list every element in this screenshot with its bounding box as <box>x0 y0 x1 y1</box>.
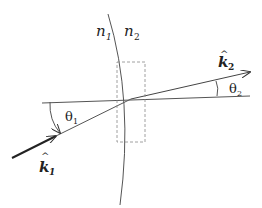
svg-text:1: 1 <box>49 167 55 177</box>
svg-text:θ: θ <box>229 81 237 96</box>
svg-text:2: 2 <box>237 89 242 98</box>
label-theta1: θ 1 <box>65 109 78 126</box>
svg-text:k: k <box>39 158 49 176</box>
svg-text:n: n <box>96 22 106 40</box>
label-k2: ^ k 2 <box>218 48 234 72</box>
label-theta2: θ 2 <box>229 81 242 98</box>
theta2-arc <box>216 81 218 96</box>
svg-text:1: 1 <box>73 117 78 126</box>
label-n2: n 2 <box>124 22 140 42</box>
svg-text:2: 2 <box>228 62 234 72</box>
svg-text:2: 2 <box>134 32 140 42</box>
label-n1: n 1 <box>96 22 112 42</box>
refraction-diagram: n 1 n 2 ^ k 2 θ 2 θ 1 ^ k 1 <box>0 0 262 208</box>
incident-ray-arrow <box>12 136 56 158</box>
theta1-arc <box>50 102 60 133</box>
svg-text:k: k <box>218 53 228 71</box>
svg-text:θ: θ <box>65 109 73 124</box>
normal-line <box>42 96 250 103</box>
svg-text:1: 1 <box>106 32 112 42</box>
label-k1: ^ k 1 <box>39 150 55 177</box>
svg-text:n: n <box>124 22 134 40</box>
